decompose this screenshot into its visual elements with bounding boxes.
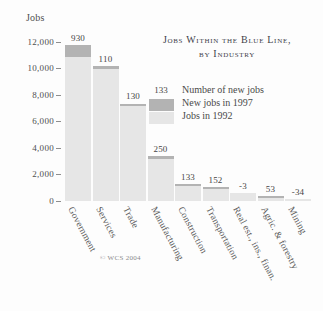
bar-segment-jobs-1992 (203, 189, 229, 201)
y-tick-label-6000: 6,000 (0, 116, 54, 126)
bar-value-label: 930 (55, 33, 101, 43)
plot-area: 930110130250133152-353-34 (63, 42, 315, 201)
y-tick-label-2000: 2,000 (0, 169, 54, 179)
bar-segment-jobs-1992 (285, 199, 311, 201)
y-tick-label-4000: 4,000 (0, 143, 54, 153)
bar-value-label: 110 (83, 54, 129, 64)
bar-value-label: 130 (110, 91, 156, 101)
y-tick-mark-8000 (56, 95, 61, 96)
bar-value-label: 250 (138, 144, 184, 154)
bar-segment-jobs-1992 (230, 193, 256, 201)
bar-segment-jobs-1992 (175, 186, 201, 201)
y-tick-mark-0 (56, 201, 61, 202)
y-tick-mark-10000 (56, 68, 61, 69)
y-tick-label-12000: 12,000 (0, 37, 54, 47)
y-tick-mark-4000 (56, 148, 61, 149)
bar-segment-new-jobs-1997 (93, 66, 119, 69)
y-tick-mark-6000 (56, 121, 61, 122)
bar-segment-jobs-1992 (65, 57, 91, 201)
x-axis-label: Mining (286, 205, 309, 235)
y-tick-label-10000: 10,000 (0, 63, 54, 73)
bar-segment-new-jobs-1997 (120, 104, 146, 107)
bar-value-label: -34 (275, 187, 321, 197)
x-axis-label: Services (94, 205, 119, 240)
y-tick-label-8000: 8,000 (0, 90, 54, 100)
x-axis-label: Government (66, 205, 98, 253)
y-axis-title: Jobs (26, 12, 45, 23)
y-tick-mark-2000 (56, 174, 61, 175)
copyright-credit: © WCS 2004 (100, 254, 141, 262)
x-axis-label: Trade (121, 205, 141, 230)
jobs-by-industry-chart: Jobs 12,000 10,000 8,000 6,000 4,000 2,0… (0, 0, 323, 311)
bar-segment-jobs-1992 (93, 69, 119, 202)
bar-segment-new-jobs-1997 (148, 156, 174, 159)
bar-segment-jobs-1992 (258, 198, 284, 201)
y-tick-label-0: 0 (0, 196, 54, 206)
